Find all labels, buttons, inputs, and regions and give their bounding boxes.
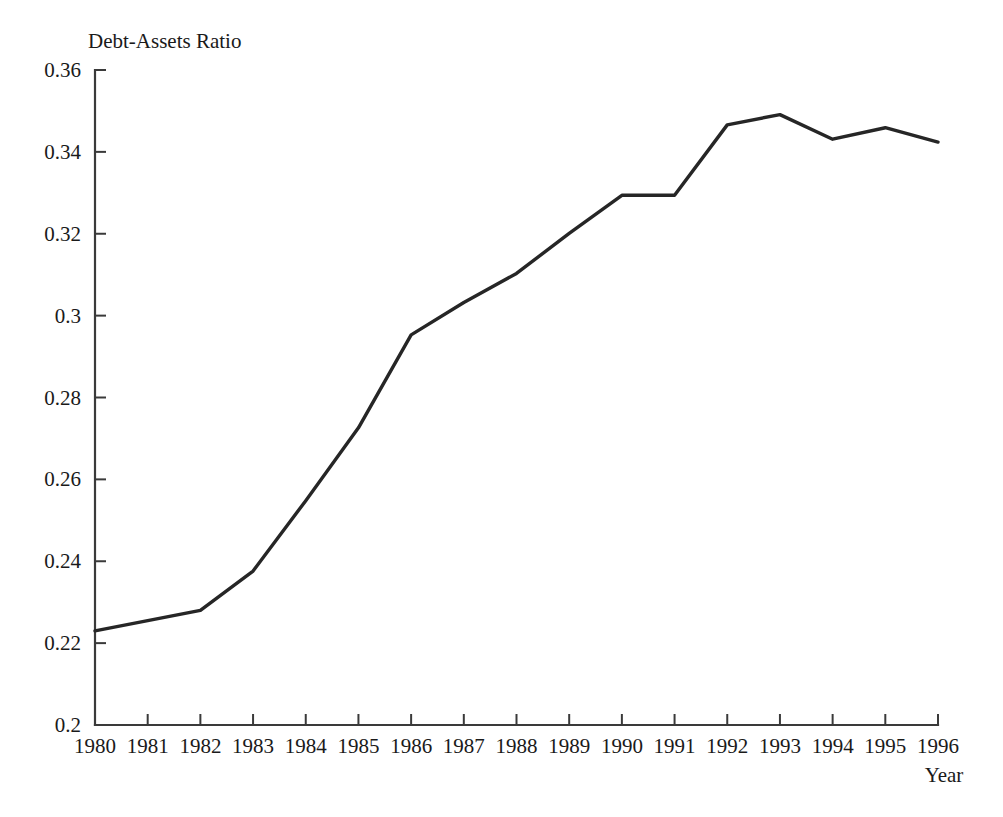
x-tick-label-1984: 1984 bbox=[285, 734, 328, 758]
x-axis-ticks bbox=[95, 714, 938, 725]
x-tick-label-1991: 1991 bbox=[654, 734, 696, 758]
y-tick-label-0.26: 0.26 bbox=[44, 467, 81, 491]
x-tick-label-1983: 1983 bbox=[232, 734, 274, 758]
y-tick-label-0.3: 0.3 bbox=[55, 304, 81, 328]
x-tick-label-1980: 1980 bbox=[74, 734, 116, 758]
x-tick-label-1986: 1986 bbox=[390, 734, 432, 758]
y-axis-tick-labels: 0.20.220.240.260.280.30.320.340.36 bbox=[44, 58, 81, 737]
y-axis: 0.20.220.240.260.280.30.320.340.36 bbox=[44, 58, 106, 737]
plot-area bbox=[95, 115, 938, 631]
chart-canvas: Debt-Assets Ratio Year 0.20.220.240.260.… bbox=[0, 0, 1003, 817]
y-axis-title: Debt-Assets Ratio bbox=[88, 29, 241, 53]
y-tick-label-0.22: 0.22 bbox=[44, 631, 81, 655]
x-tick-label-1992: 1992 bbox=[706, 734, 748, 758]
x-tick-label-1981: 1981 bbox=[127, 734, 169, 758]
y-axis-ticks bbox=[95, 70, 106, 725]
x-tick-label-1985: 1985 bbox=[337, 734, 379, 758]
x-axis-tick-labels: 1980198119821983198419851986198719881989… bbox=[74, 734, 959, 758]
x-tick-label-1996: 1996 bbox=[917, 734, 959, 758]
x-tick-label-1989: 1989 bbox=[548, 734, 590, 758]
x-axis-title: Year bbox=[925, 763, 964, 787]
y-tick-label-0.36: 0.36 bbox=[44, 58, 81, 82]
x-tick-label-1987: 1987 bbox=[443, 734, 485, 758]
debt-assets-ratio-chart: Debt-Assets Ratio Year 0.20.220.240.260.… bbox=[0, 0, 1003, 817]
x-tick-label-1993: 1993 bbox=[759, 734, 801, 758]
data-line-debt-assets-ratio bbox=[95, 115, 938, 631]
y-tick-label-0.34: 0.34 bbox=[44, 140, 81, 164]
x-tick-label-1994: 1994 bbox=[812, 734, 855, 758]
x-tick-label-1995: 1995 bbox=[864, 734, 906, 758]
y-tick-label-0.28: 0.28 bbox=[44, 386, 81, 410]
x-tick-label-1990: 1990 bbox=[601, 734, 643, 758]
x-tick-label-1982: 1982 bbox=[179, 734, 221, 758]
y-tick-label-0.32: 0.32 bbox=[44, 222, 81, 246]
x-tick-label-1988: 1988 bbox=[496, 734, 538, 758]
y-tick-label-0.24: 0.24 bbox=[44, 549, 81, 573]
x-axis: 1980198119821983198419851986198719881989… bbox=[74, 714, 959, 758]
